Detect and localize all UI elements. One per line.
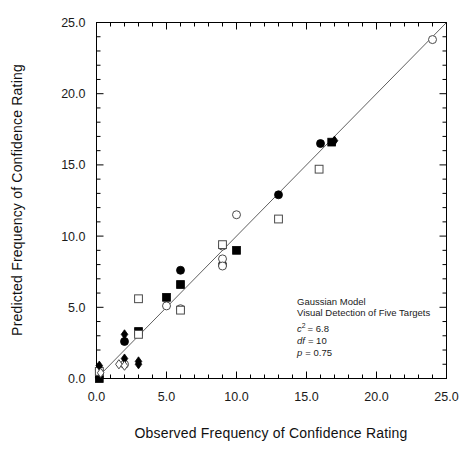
x-tick-label: 0.0 (88, 390, 105, 404)
y-tick-labels: 0.05.010.015.020.025.0 (61, 16, 85, 386)
x-tick-labels: 0.05.010.015.020.025.0 (88, 390, 459, 404)
annotation-model-name: Gaussian Model (297, 296, 366, 307)
data-point-open-circle (233, 211, 241, 219)
y-tick-label: 0.0 (68, 372, 85, 386)
x-tick-label: 5.0 (158, 390, 175, 404)
data-point-open-circle (219, 262, 227, 270)
x-tick-label: 25.0 (434, 390, 458, 404)
data-point-filled-diamond (121, 330, 128, 339)
data-markers (95, 36, 436, 383)
data-point-open-circle (163, 302, 171, 310)
identity-line (97, 23, 447, 379)
x-tick-label: 15.0 (294, 390, 318, 404)
df-value: = 10 (308, 335, 327, 346)
data-point-filled-circle (275, 191, 283, 199)
p-value: = 0.75 (305, 347, 332, 358)
data-point-filled-square (233, 246, 241, 254)
data-point-open-square (135, 330, 143, 338)
data-point-open-diamond (116, 360, 123, 369)
df-label: df (297, 335, 306, 346)
x-axis-title: Observed Frequency of Confidence Rating (134, 425, 407, 441)
data-point-open-square (315, 165, 323, 173)
annotation-p-value: p= 0.75 (296, 347, 332, 358)
data-point-filled-square (177, 281, 185, 289)
chart-canvas: 0.05.010.015.020.025.0 0.05.010.015.020.… (0, 0, 469, 452)
annotation-chi-square: c2= 6.8 (297, 322, 329, 334)
data-point-open-square (219, 241, 227, 249)
annotation-experiment: Visual Detection of Five Targets (297, 307, 430, 318)
y-tick-label: 25.0 (61, 16, 85, 30)
y-tick-label: 10.0 (61, 230, 85, 244)
y-axis-title: Predicted Frequency of Confidence Rating (9, 64, 25, 336)
data-point-filled-square (163, 293, 171, 301)
x-tick-label: 10.0 (224, 390, 248, 404)
y-tick-label: 20.0 (61, 87, 85, 101)
annotation-block: Gaussian Model Visual Detection of Five … (296, 296, 430, 358)
y-tick-label: 5.0 (68, 301, 85, 315)
data-point-filled-circle (177, 266, 185, 274)
y-tick-label: 15.0 (61, 158, 85, 172)
data-point-open-square (135, 295, 143, 303)
data-point-open-square (275, 215, 283, 223)
annotation-df: df= 10 (297, 335, 327, 346)
p-label: p (296, 347, 302, 358)
data-point-filled-circle (317, 140, 325, 148)
data-point-open-square (177, 306, 185, 314)
chi-exponent: 2 (302, 322, 306, 329)
x-tick-label: 20.0 (364, 390, 388, 404)
scatter-plot-figure: 0.05.010.015.020.025.0 0.05.010.015.020.… (0, 0, 469, 452)
data-point-open-circle (429, 36, 437, 44)
chi-value: = 6.8 (308, 323, 329, 334)
